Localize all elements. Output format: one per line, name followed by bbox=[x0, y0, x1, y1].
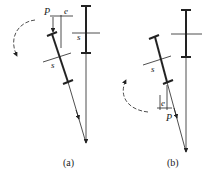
label-P-a: P bbox=[43, 6, 50, 17]
label-s-tilted-b: s bbox=[151, 64, 155, 74]
panel-a bbox=[14, 6, 100, 143]
label-s-tilted-a: s bbox=[51, 60, 55, 70]
rotation-arrow-b bbox=[123, 80, 148, 112]
diagram-svg: P e s s (a) e P s (b) bbox=[0, 0, 214, 180]
label-s-vertical-a: s bbox=[77, 32, 81, 42]
rotation-arrow-a bbox=[14, 20, 35, 56]
caption-b: (b) bbox=[167, 157, 179, 169]
panel-b bbox=[123, 10, 202, 152]
diagram-canvas: P e s s (a) e P s (b) bbox=[0, 0, 214, 180]
label-e-b: e bbox=[161, 98, 165, 108]
label-e-a: e bbox=[64, 6, 68, 16]
caption-a: (a) bbox=[63, 157, 74, 169]
label-P-b: P bbox=[165, 112, 172, 123]
load-arrow-b bbox=[174, 108, 177, 118]
